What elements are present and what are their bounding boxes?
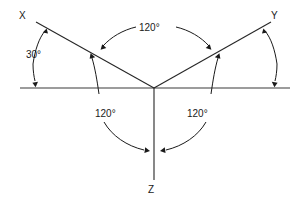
angle-120-right-arrowhead-upper: [215, 53, 221, 59]
angle-120-top-arc-right: [176, 27, 209, 46]
label-ray-x: X: [19, 11, 26, 21]
angle-120-left-arc-lower: [104, 122, 144, 150]
label-angle-30: 30°: [26, 50, 41, 60]
angle-120-right-arc-upper: [211, 58, 218, 94]
angle-30-arrowhead-lower: [32, 82, 38, 87]
angle-30-arc-lower: [33, 64, 35, 81]
ray-y-line: [154, 22, 271, 88]
label-angle-120-left: 120°: [95, 109, 116, 119]
angle-120-right-arc-lower: [166, 122, 206, 150]
angle-120-left-arrowhead-lower: [144, 147, 150, 153]
ray-x-line: [36, 22, 154, 88]
label-ray-y: Y: [271, 11, 278, 21]
angle-right-arrowhead-lower: [272, 82, 278, 87]
label-angle-120-right: 120°: [187, 109, 208, 119]
diagram-canvas: X Y Z 30° 120° 120° 120°: [0, 0, 308, 205]
label-ray-z: Z: [148, 185, 154, 195]
angle-right-arc-upper: [265, 31, 277, 64]
angle-right-arc-lower: [275, 64, 277, 81]
angle-120-right-arrowhead-lower: [160, 147, 166, 153]
angle-120-left-arc-upper: [92, 58, 99, 94]
label-angle-120-top: 120°: [139, 23, 160, 33]
angle-120-top-arc-left: [103, 27, 136, 46]
